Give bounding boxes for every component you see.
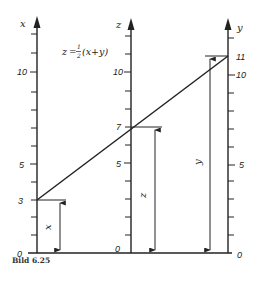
formula-rest: (x+y) bbox=[82, 46, 108, 57]
y-tick-10: 10 bbox=[236, 70, 246, 80]
y-axis: y 11 10 5 0 bbox=[225, 18, 247, 260]
z-axis-arrow-icon bbox=[128, 18, 135, 30]
x-tick-5: 5 bbox=[19, 160, 25, 170]
z-tick-7: 7 bbox=[116, 122, 122, 132]
figure-caption: Bild 6.25 bbox=[12, 256, 50, 265]
z-tick-0: 0 bbox=[115, 244, 120, 254]
formula-z: z bbox=[61, 46, 68, 57]
z-tick-10: 10 bbox=[113, 67, 123, 77]
formula-numerator: 1 bbox=[77, 43, 81, 50]
y-tick-0: 0 bbox=[237, 250, 242, 260]
y-axis-arrow-icon bbox=[225, 18, 232, 30]
nomogram-diagram: x 10 5 3 0 z 10 7 5 0 bbox=[0, 0, 259, 285]
y-tick-11: 11 bbox=[236, 52, 245, 62]
y-axis-label: y bbox=[236, 22, 243, 33]
x-dimension-label: x bbox=[42, 224, 53, 230]
z-axis: z 10 7 5 0 bbox=[113, 18, 135, 254]
z-dimension-label: z bbox=[137, 192, 148, 199]
formula: z = 1 2 (x+y) bbox=[61, 43, 108, 59]
z-axis-label: z bbox=[115, 19, 122, 30]
formula-denominator: 2 bbox=[76, 52, 81, 59]
x-tick-3: 3 bbox=[18, 196, 23, 206]
y-tick-5: 5 bbox=[239, 160, 245, 170]
y-dimension-label: y bbox=[192, 159, 203, 166]
x-axis-arrow-icon bbox=[34, 16, 41, 28]
connecting-line bbox=[37, 56, 228, 200]
z-tick-5: 5 bbox=[116, 159, 122, 169]
formula-equals: = bbox=[69, 47, 77, 57]
x-axis: x 10 5 3 0 bbox=[17, 16, 41, 259]
x-axis-label: x bbox=[20, 18, 26, 29]
x-tick-10: 10 bbox=[17, 67, 27, 77]
